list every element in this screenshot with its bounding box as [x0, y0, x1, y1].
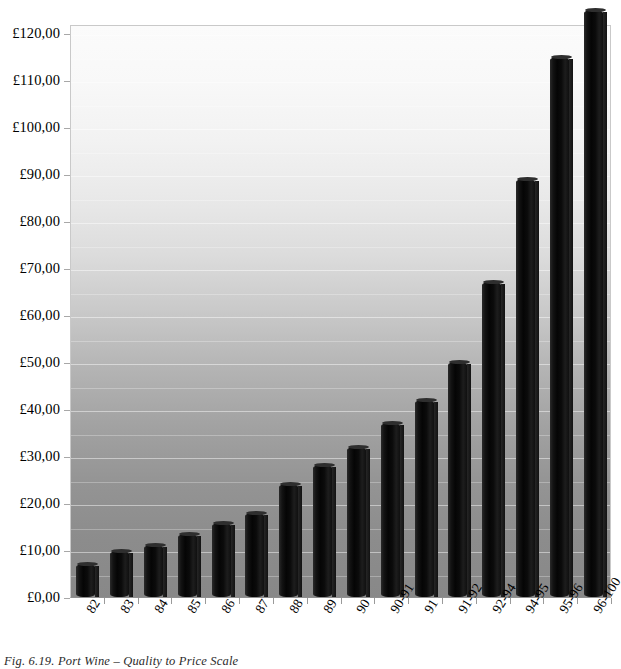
y-axis-tick-label: £110,00 — [0, 73, 60, 88]
y-axis-tick-label: £90,00 — [0, 167, 60, 182]
bar-side-face — [535, 181, 539, 597]
bar — [482, 282, 505, 597]
x-axis-tick-mark — [273, 598, 274, 604]
bar-body — [212, 523, 231, 597]
bar-side-face — [197, 536, 201, 597]
bar — [313, 465, 336, 597]
x-axis-tick-mark — [442, 598, 443, 604]
x-axis-tick-label: 86 — [218, 596, 239, 616]
bar-body — [279, 484, 298, 597]
bar-body — [482, 282, 501, 597]
bar-series — [71, 26, 610, 597]
bar — [550, 57, 573, 598]
bar-top-ellipse — [551, 55, 572, 59]
x-axis-tick-mark — [171, 598, 172, 604]
x-axis-tick-label: 82 — [83, 596, 104, 616]
x-axis-tick-label: 87 — [252, 596, 273, 616]
y-axis-tick-label: £70,00 — [0, 261, 60, 276]
x-axis-tick-label: 91 — [421, 596, 442, 616]
x-axis-tick-label: 90 — [353, 596, 374, 616]
bar-body — [448, 362, 467, 597]
y-axis-tick-label: £100,00 — [0, 120, 60, 135]
y-axis-tick-label: £60,00 — [0, 308, 60, 323]
bar — [178, 534, 201, 597]
bar-body — [178, 534, 197, 597]
y-axis-tick-label: £30,00 — [0, 449, 60, 464]
bar — [516, 179, 539, 597]
bar-top-ellipse — [348, 445, 369, 449]
bar-side-face — [95, 566, 99, 597]
figure-caption: Fig. 6.19. Port Wine – Quality to Price … — [4, 654, 238, 669]
bar-top-ellipse — [111, 549, 132, 553]
x-axis-tick-mark — [341, 598, 342, 604]
bar-body — [550, 57, 569, 598]
bar-body — [245, 513, 264, 597]
bar-body — [76, 564, 95, 597]
x-axis-tick-label: 85 — [184, 596, 205, 616]
bar-top-ellipse — [179, 532, 200, 536]
bar-body — [516, 179, 535, 597]
x-axis-tick-label: 83 — [117, 596, 138, 616]
bar-body — [347, 447, 366, 597]
bar — [245, 513, 268, 597]
bar — [584, 10, 607, 598]
bar-side-face — [434, 402, 438, 597]
y-axis-tick-label: £0,00 — [0, 590, 60, 605]
bar-body — [110, 551, 129, 597]
bar-side-face — [603, 12, 607, 598]
bar — [144, 545, 167, 597]
x-axis-tick-label: 89 — [320, 596, 341, 616]
x-axis-tick-mark — [307, 598, 308, 604]
x-axis: 82838485868788899090-919191-9292-9494-95… — [70, 598, 611, 660]
bar-top-ellipse — [585, 8, 606, 12]
bar-body — [415, 400, 434, 597]
bar-side-face — [467, 364, 471, 597]
bar-side-face — [332, 467, 336, 597]
x-axis-tick-mark — [239, 598, 240, 604]
bar-top-ellipse — [517, 177, 538, 181]
bar-side-face — [569, 59, 573, 598]
bar — [448, 362, 471, 597]
bar-top-ellipse — [416, 398, 437, 402]
y-axis-tick-label: £120,00 — [0, 26, 60, 41]
y-axis: £120,00£110,00£100,00£90,00£80,00£70,00£… — [0, 0, 66, 610]
bar-side-face — [163, 547, 167, 597]
bar — [279, 484, 302, 597]
bar-side-face — [501, 284, 505, 597]
y-axis-tick-label: £50,00 — [0, 355, 60, 370]
bar — [212, 523, 235, 597]
y-axis-tick-label: £10,00 — [0, 543, 60, 558]
bar-body — [584, 10, 603, 598]
bar-side-face — [400, 425, 404, 597]
bar-side-face — [129, 553, 133, 597]
x-axis-tick-label: 84 — [151, 596, 172, 616]
bar-side-face — [231, 525, 235, 597]
x-axis-tick-mark — [374, 598, 375, 604]
bar — [347, 447, 370, 597]
bar — [415, 400, 438, 597]
bar-body — [144, 545, 163, 597]
y-axis-tick-label: £80,00 — [0, 214, 60, 229]
bar — [381, 423, 404, 597]
bar — [110, 551, 133, 597]
bar-body — [381, 423, 400, 597]
plot-area — [70, 25, 611, 598]
bar-side-face — [366, 449, 370, 597]
x-axis-tick-mark — [104, 598, 105, 604]
x-axis-tick-mark — [205, 598, 206, 604]
x-axis-tick-label: 88 — [286, 596, 307, 616]
y-axis-tick-label: £40,00 — [0, 402, 60, 417]
bar-body — [313, 465, 332, 597]
y-axis-tick-label: £20,00 — [0, 496, 60, 511]
x-axis-tick-mark — [138, 598, 139, 604]
bar — [76, 564, 99, 597]
bar-side-face — [298, 486, 302, 597]
bar-side-face — [264, 515, 268, 597]
